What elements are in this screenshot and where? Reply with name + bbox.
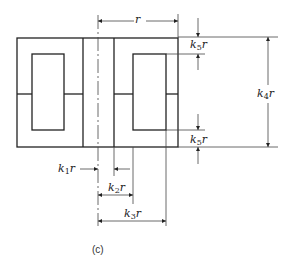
- label-k3r: k3r: [124, 208, 141, 221]
- right-window: [133, 54, 166, 130]
- label-k5r-bottom: k5r: [190, 134, 207, 147]
- figure-caption: (c): [92, 244, 104, 255]
- label-k1r: k1r: [58, 163, 75, 176]
- label-k2r: k2r: [108, 182, 125, 195]
- left-window: [32, 54, 64, 130]
- label-k4r: k4r: [257, 88, 274, 101]
- label-k5r-top: k5r: [190, 39, 207, 52]
- core-diagram: [0, 0, 286, 264]
- label-r: r: [135, 14, 140, 25]
